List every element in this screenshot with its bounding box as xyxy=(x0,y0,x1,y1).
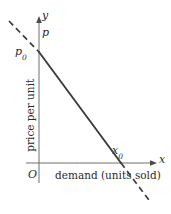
x-axis-arrowhead xyxy=(150,160,157,166)
x-axis-name-label: x xyxy=(159,154,165,165)
y-intercept-label: p0 xyxy=(15,46,27,60)
origin-label: O xyxy=(28,169,37,180)
y-axis-title: price per unit xyxy=(25,75,36,155)
y-axis-name-label: y xyxy=(42,10,48,21)
y-intercept-subscript: 0 xyxy=(22,53,27,62)
demand-line-solid xyxy=(39,52,121,163)
x-intercept-subscript: 0 xyxy=(118,152,123,161)
y-intercept-base: p xyxy=(15,45,22,58)
price-variable-label: p xyxy=(42,27,49,38)
x-axis-title: demand (units sold) xyxy=(55,170,161,181)
demand-curve-figure: y p p0 x x0 O demand (units sold) price … xyxy=(0,0,171,214)
x-intercept-label: x0 xyxy=(112,145,123,159)
y-axis-arrowhead xyxy=(36,16,42,23)
